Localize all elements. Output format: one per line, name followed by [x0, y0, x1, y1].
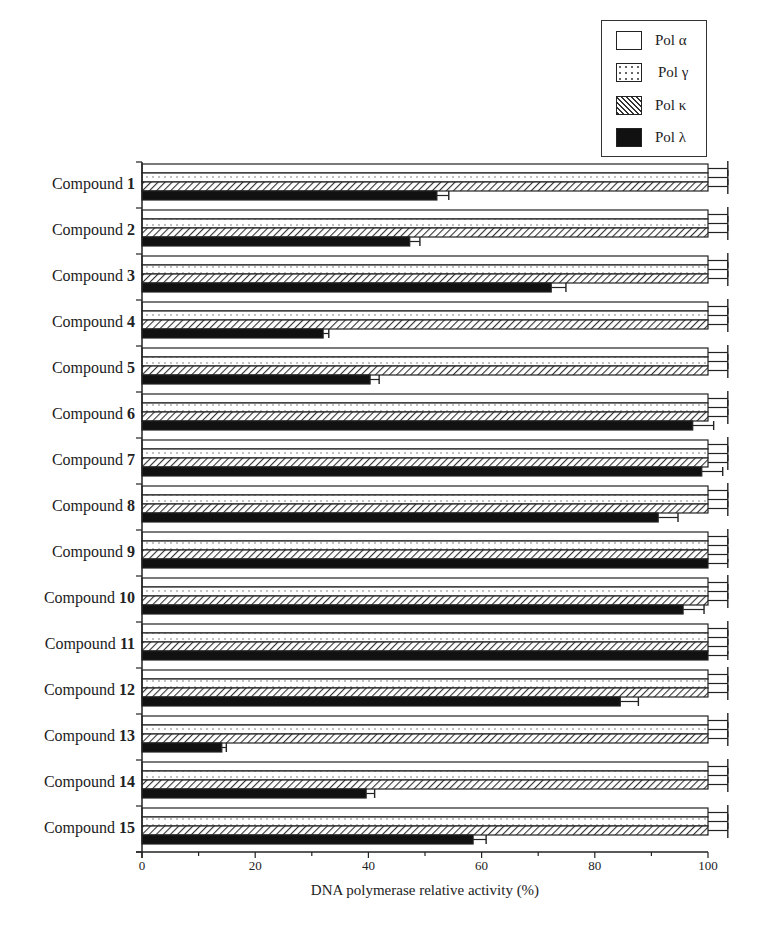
bar — [142, 559, 708, 568]
compound-number: 14 — [119, 773, 135, 790]
label-prefix: Compound — [52, 451, 127, 468]
y-axis-label: Compound 3 — [52, 267, 135, 285]
compound-number: 2 — [127, 221, 135, 238]
bar — [142, 578, 708, 587]
x-tick-label: 100 — [698, 858, 718, 874]
y-axis-label: Compound 4 — [52, 313, 135, 331]
compound-number: 13 — [119, 727, 135, 744]
bar — [142, 532, 708, 541]
bar — [142, 210, 708, 219]
label-prefix: Compound — [52, 313, 127, 330]
legend-label: Pol λ — [655, 129, 686, 146]
compound-number: 12 — [119, 681, 135, 698]
legend-item-pol-lambda: Pol λ — [616, 127, 686, 147]
legend-item-pol-alpha: Pol α — [616, 30, 687, 50]
bar-group — [142, 161, 728, 200]
compound-number: 10 — [119, 589, 135, 606]
bar-group — [142, 667, 728, 706]
bar — [142, 302, 708, 311]
y-axis-label: Compound 12 — [44, 681, 135, 699]
bar — [142, 642, 708, 651]
bar-group — [142, 391, 728, 430]
hatched-swatch-icon — [616, 96, 642, 115]
bar — [142, 743, 222, 752]
bar — [142, 789, 366, 798]
y-axis-label: Compound 8 — [52, 497, 135, 515]
x-tick-label: 80 — [588, 858, 601, 874]
x-axis-title: DNA polymerase relative activity (%) — [0, 882, 757, 899]
bar — [142, 191, 437, 200]
bar-group — [142, 345, 728, 384]
bar-groups — [142, 161, 728, 844]
y-axis-label: Compound 9 — [52, 543, 135, 561]
y-axis-label: Compound 11 — [45, 635, 135, 653]
y-axis-label: Compound 15 — [44, 819, 135, 837]
compound-number: 11 — [120, 635, 135, 652]
bar — [142, 329, 323, 338]
bar — [142, 725, 708, 734]
bar-group — [142, 805, 728, 844]
bar — [142, 256, 708, 265]
label-prefix: Compound — [44, 681, 119, 698]
x-tick-label: 40 — [362, 858, 375, 874]
bar — [142, 550, 708, 559]
bar-group — [142, 207, 728, 246]
bar — [142, 274, 708, 283]
compound-number: 7 — [127, 451, 135, 468]
open-swatch-icon — [616, 31, 642, 50]
bar — [142, 835, 473, 844]
bar-group — [142, 529, 728, 568]
bar — [142, 228, 708, 237]
bar-group — [142, 253, 728, 292]
bar — [142, 449, 708, 458]
bar — [142, 467, 702, 476]
bar — [142, 670, 708, 679]
bar-group — [142, 621, 728, 660]
compound-number: 6 — [127, 405, 135, 422]
bar — [142, 375, 370, 384]
bar — [142, 605, 683, 614]
legend-item-pol-kappa: Pol κ — [616, 95, 686, 115]
label-prefix: Compound — [45, 635, 120, 652]
legend-item-pol-gamma: Pol γ — [616, 62, 688, 82]
label-prefix: Compound — [52, 267, 127, 284]
bar — [142, 348, 708, 357]
y-axis-label: Compound 2 — [52, 221, 135, 239]
compound-number: 15 — [119, 819, 135, 836]
compound-number: 3 — [127, 267, 135, 284]
bar — [142, 283, 551, 292]
legend-label: Pol κ — [655, 97, 686, 114]
x-tick-label: 20 — [249, 858, 262, 874]
legend: Pol α Pol γ Pol κ Pol λ — [601, 20, 707, 157]
bar — [142, 541, 708, 550]
bar — [142, 624, 708, 633]
bar — [142, 412, 708, 421]
compound-number: 4 — [127, 313, 135, 330]
bar — [142, 173, 708, 182]
compound-number: 1 — [127, 175, 135, 192]
y-axis-label: Compound 14 — [44, 773, 135, 791]
bar — [142, 495, 708, 504]
bar — [142, 320, 708, 329]
solid-swatch-icon — [616, 128, 642, 147]
label-prefix: Compound — [52, 175, 127, 192]
bar — [142, 780, 708, 789]
bar — [142, 817, 708, 826]
bar-group — [142, 299, 728, 338]
bar — [142, 513, 658, 522]
bar — [142, 697, 620, 706]
bar — [142, 716, 708, 725]
bar — [142, 311, 708, 320]
bar — [142, 403, 708, 412]
bar — [142, 237, 410, 246]
bar — [142, 440, 708, 449]
bar — [142, 587, 708, 596]
label-prefix: Compound — [44, 727, 119, 744]
bar — [142, 596, 708, 605]
bar — [142, 679, 708, 688]
y-axis-label: Compound 7 — [52, 451, 135, 469]
bar — [142, 265, 708, 274]
y-axis-label: Compound 1 — [52, 175, 135, 193]
label-prefix: Compound — [44, 773, 119, 790]
y-axis-label: Compound 6 — [52, 405, 135, 423]
